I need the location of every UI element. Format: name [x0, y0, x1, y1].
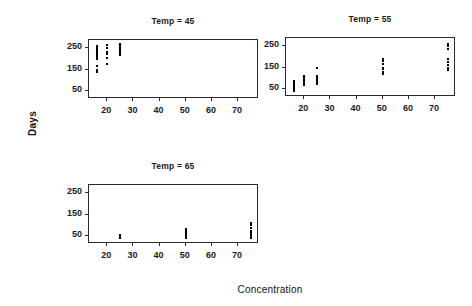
panel-temp-65: Temp = 6520304050607050150250: [80, 161, 264, 273]
y-tick-mark: [282, 67, 285, 68]
x-tick-mark: [237, 243, 238, 246]
x-tick-label-40: 40: [344, 103, 368, 113]
x-tick-label-20: 20: [291, 103, 315, 113]
x-tick-label-60: 60: [199, 250, 223, 260]
panel-title-temp-45: Temp = 45: [88, 16, 258, 26]
y-tick-mark: [85, 69, 88, 70]
data-point: [382, 68, 384, 70]
plot-area-temp-55: [285, 37, 455, 96]
y-tick-label-250: 250: [50, 186, 82, 196]
data-point: [447, 45, 449, 47]
x-tick-label-70: 70: [422, 103, 446, 113]
x-tick-label-60: 60: [199, 105, 223, 115]
x-tick-label-40: 40: [147, 105, 171, 115]
x-tick-label-60: 60: [396, 103, 420, 113]
y-tick-label-150: 150: [50, 208, 82, 218]
x-tick-label-20: 20: [94, 105, 118, 115]
plot-area-temp-65: [88, 184, 258, 243]
data-point: [447, 61, 449, 63]
data-point: [106, 44, 108, 46]
data-point: [106, 53, 108, 55]
x-tick-label-50: 50: [173, 105, 197, 115]
y-tick-label-50: 50: [247, 82, 279, 92]
y-axis-label: Days: [27, 100, 38, 148]
panel-temp-55: Temp = 5520304050607050150250: [277, 14, 461, 126]
panel-title-temp-55: Temp = 55: [285, 14, 455, 24]
x-tick-label-70: 70: [225, 105, 249, 115]
x-tick-label-20: 20: [94, 250, 118, 260]
y-tick-label-150: 150: [247, 61, 279, 71]
x-axis-label: Concentration: [180, 284, 360, 295]
data-point: [250, 237, 252, 239]
y-tick-mark: [282, 88, 285, 89]
x-tick-mark: [106, 243, 107, 246]
data-point: [293, 90, 295, 92]
x-tick-mark: [408, 96, 409, 99]
panel-temp-45: Temp = 4520304050607050150250: [80, 16, 264, 128]
x-tick-mark: [329, 96, 330, 99]
x-tick-mark: [185, 98, 186, 101]
x-tick-mark: [132, 243, 133, 246]
x-tick-label-50: 50: [173, 250, 197, 260]
x-tick-mark: [106, 98, 107, 101]
data-point: [316, 67, 318, 69]
x-tick-mark: [356, 96, 357, 99]
plot-area-temp-45: [88, 39, 258, 98]
y-tick-label-250: 250: [247, 39, 279, 49]
data-point: [185, 237, 187, 239]
data-point: [382, 63, 384, 65]
data-point: [119, 54, 121, 56]
y-tick-label-250: 250: [50, 41, 82, 51]
y-tick-mark: [85, 214, 88, 215]
x-tick-label-40: 40: [147, 250, 171, 260]
y-tick-label-50: 50: [50, 84, 82, 94]
y-tick-label-50: 50: [50, 229, 82, 239]
y-tick-mark: [85, 90, 88, 91]
x-tick-label-30: 30: [317, 103, 341, 113]
y-tick-mark: [85, 192, 88, 193]
x-tick-mark: [132, 98, 133, 101]
data-point: [447, 69, 449, 71]
data-point: [106, 57, 108, 59]
data-point: [250, 227, 252, 229]
y-tick-label-150: 150: [50, 63, 82, 73]
data-point: [106, 47, 108, 49]
x-tick-mark: [159, 243, 160, 246]
data-point: [96, 71, 98, 73]
data-point: [303, 84, 305, 86]
data-point: [106, 63, 108, 65]
data-point: [447, 48, 449, 50]
scatter-plot-figure: Temp = 4520304050607050150250 Temp = 552…: [0, 0, 472, 306]
panel-title-temp-65: Temp = 65: [88, 161, 258, 171]
data-point: [119, 237, 121, 239]
x-tick-mark: [303, 96, 304, 99]
x-tick-mark: [211, 98, 212, 101]
y-tick-mark: [85, 47, 88, 48]
data-point: [96, 65, 98, 67]
x-tick-label-50: 50: [370, 103, 394, 113]
x-tick-label-30: 30: [120, 250, 144, 260]
x-tick-mark: [382, 96, 383, 99]
x-tick-mark: [159, 98, 160, 101]
x-tick-mark: [434, 96, 435, 99]
data-point: [96, 58, 98, 60]
y-tick-mark: [85, 235, 88, 236]
data-point: [382, 73, 384, 75]
x-tick-label-30: 30: [120, 105, 144, 115]
data-point: [382, 60, 384, 62]
x-tick-mark: [185, 243, 186, 246]
x-tick-mark: [237, 98, 238, 101]
y-tick-mark: [282, 45, 285, 46]
data-point: [316, 83, 318, 85]
x-tick-label-70: 70: [225, 250, 249, 260]
x-tick-mark: [211, 243, 212, 246]
